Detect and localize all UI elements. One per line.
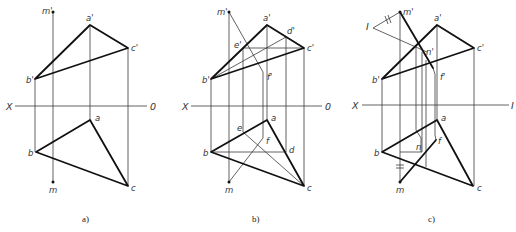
- label-f: f: [438, 136, 443, 146]
- panel-a: X 0 m' a' c' b' a b c m a): [5, 6, 156, 224]
- label-a: a: [95, 113, 100, 123]
- label-e-prime: e': [234, 40, 242, 50]
- line-m-prime-thick: [400, 12, 433, 68]
- label-a-prime: a': [86, 13, 94, 23]
- label-m: m: [396, 185, 404, 195]
- top-triangle: [382, 120, 473, 186]
- m-point: [399, 181, 402, 184]
- label-c: c: [131, 183, 136, 193]
- label-a-prime: a': [263, 13, 271, 23]
- label-f-prime: f': [267, 72, 272, 82]
- axis-label-0: 0: [150, 101, 156, 112]
- axis-label-x: X: [181, 101, 189, 112]
- label-b: b: [203, 148, 208, 158]
- label-f-prime: f': [440, 72, 445, 82]
- label-m-prime: m': [42, 6, 53, 16]
- m-prime-point: [399, 11, 402, 14]
- label-b-prime: b': [202, 75, 210, 85]
- label-m: m: [49, 185, 57, 195]
- label-f: f: [266, 136, 271, 146]
- axis-label-0: 0: [325, 101, 331, 112]
- label-I: I: [366, 21, 369, 32]
- m-prime-point: [228, 11, 231, 14]
- label-n: n: [416, 142, 421, 152]
- label-c-prime: c': [307, 43, 314, 53]
- panel-c: X I I m' a' c' n' f' b' a n f b c m c): [351, 7, 514, 224]
- label-a: a: [271, 113, 276, 123]
- axis-label-x: X: [351, 100, 359, 111]
- axis-label-x: X: [5, 101, 13, 112]
- tick-mark-1: [385, 16, 388, 24]
- line-e-c: [243, 132, 304, 186]
- label-m-prime: m': [217, 7, 228, 17]
- line-m-f-broken: [229, 12, 263, 182]
- panel-b: X 0 m' a' d' c' e' f' b' a e f d b c m b…: [181, 7, 331, 224]
- label-c: c: [307, 183, 312, 193]
- label-d-prime: d': [287, 26, 295, 36]
- label-m: m: [225, 185, 233, 195]
- front-triangle: [35, 25, 128, 79]
- label-c: c: [477, 183, 482, 193]
- label-b-prime: b': [372, 75, 380, 85]
- label-a: a: [441, 113, 446, 123]
- caption-a: a): [82, 214, 89, 224]
- label-a-prime: a': [434, 13, 442, 23]
- label-n-prime: n': [426, 47, 434, 57]
- label-b: b: [28, 148, 33, 158]
- caption-c: c): [428, 214, 435, 224]
- label-d: d: [289, 145, 295, 155]
- label-e: e: [237, 123, 242, 133]
- label-m-prime: m': [403, 7, 414, 17]
- line-f-prime-f: [433, 68, 436, 140]
- label-c-prime: c': [131, 43, 138, 53]
- projection-diagram: X 0 m' a' c' b' a b c m a) X 0 m': [0, 0, 516, 232]
- top-triangle: [36, 120, 128, 186]
- caption-b: b): [252, 214, 260, 224]
- axis-label-I: I: [511, 100, 514, 111]
- label-b: b: [374, 148, 379, 158]
- m-point: [52, 181, 55, 184]
- label-c-prime: c': [477, 43, 484, 53]
- m-point: [228, 181, 231, 184]
- label-b-prime: b': [26, 75, 34, 85]
